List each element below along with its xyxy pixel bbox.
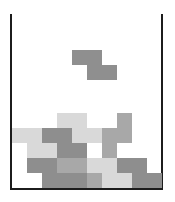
stack-block: [42, 128, 57, 143]
stack-block: [57, 143, 72, 158]
stack-block: [27, 128, 42, 143]
stack-block: [87, 128, 102, 143]
stack-block: [117, 173, 132, 188]
stack-block: [102, 158, 117, 173]
stack-block: [87, 158, 102, 173]
stack-block: [147, 173, 162, 188]
active-piece-block: [87, 65, 102, 80]
stack-block: [57, 128, 72, 143]
stack-block: [117, 128, 132, 143]
active-piece-block: [102, 65, 117, 80]
stack-block: [87, 173, 102, 188]
stack-block: [72, 143, 87, 158]
left-wall: [10, 14, 12, 190]
stack-block: [102, 173, 117, 188]
floor: [10, 188, 163, 190]
stack-block: [117, 158, 132, 173]
active-piece-block: [72, 50, 87, 65]
stack-block: [42, 143, 57, 158]
stack-block: [72, 113, 87, 128]
stack-block: [132, 158, 147, 173]
stack-block: [57, 158, 72, 173]
right-wall: [161, 14, 163, 190]
stack-block: [102, 128, 117, 143]
stack-block: [57, 173, 72, 188]
stack-block: [72, 128, 87, 143]
stack-block: [102, 143, 117, 158]
stack-block: [57, 113, 72, 128]
stack-block: [117, 113, 132, 128]
stack-block: [27, 158, 42, 173]
stack-block: [42, 158, 57, 173]
stack-block: [72, 158, 87, 173]
stack-block: [12, 128, 27, 143]
stack-block: [27, 143, 42, 158]
active-piece-block: [87, 50, 102, 65]
stack-block: [42, 173, 57, 188]
stack-block: [72, 173, 87, 188]
stack-block: [132, 173, 147, 188]
